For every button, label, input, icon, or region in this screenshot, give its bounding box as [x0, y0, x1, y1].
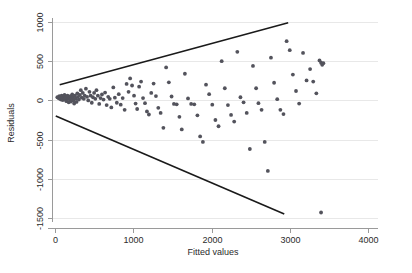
data-point	[175, 102, 179, 106]
data-point	[183, 72, 187, 76]
data-point	[204, 83, 208, 87]
x-tick-label: 3000	[280, 235, 300, 245]
data-point	[288, 48, 292, 52]
data-point	[217, 124, 221, 128]
data-point	[86, 99, 90, 103]
data-point	[198, 135, 202, 139]
x-tick-label: 2000	[202, 235, 222, 245]
data-point	[210, 103, 214, 107]
data-point	[113, 96, 117, 100]
data-point	[145, 109, 149, 113]
scatter-plot-figure: -1500-1000-50005001000 01000200030004000…	[0, 0, 412, 273]
data-point	[139, 80, 143, 84]
plot-axes	[48, 18, 378, 229]
data-point	[285, 39, 289, 43]
data-point	[178, 115, 182, 119]
data-point	[314, 91, 318, 95]
data-point	[291, 73, 295, 77]
y-tick-label: 1000	[35, 12, 45, 32]
data-point	[156, 106, 160, 110]
x-axis-ticks	[56, 229, 369, 234]
y-tick-label: -1500	[35, 207, 45, 230]
data-point	[308, 67, 312, 71]
lower-envelope	[56, 116, 284, 214]
data-point	[248, 147, 252, 151]
data-point	[154, 94, 158, 98]
x-tick-label: 4000	[358, 235, 378, 245]
data-point	[117, 92, 121, 96]
data-point	[102, 98, 106, 102]
data-point	[251, 64, 255, 68]
data-point	[207, 92, 211, 96]
data-point	[260, 108, 264, 112]
data-point	[242, 100, 246, 104]
data-point	[229, 113, 233, 117]
data-point	[149, 91, 153, 95]
data-point	[266, 169, 270, 173]
data-point	[170, 95, 174, 99]
data-point	[137, 85, 141, 89]
data-point	[311, 80, 315, 84]
data-point	[186, 97, 190, 101]
data-point	[125, 82, 129, 86]
data-point	[321, 61, 325, 65]
data-point	[119, 103, 123, 107]
data-point	[201, 140, 205, 144]
data-point	[272, 81, 276, 85]
upper-envelope	[60, 23, 288, 85]
data-point	[245, 111, 249, 115]
y-axis-ticks	[48, 23, 53, 219]
data-point	[223, 86, 227, 90]
data-point	[105, 103, 109, 107]
data-point	[84, 87, 88, 91]
data-point	[90, 101, 94, 105]
data-point	[152, 82, 156, 86]
y-axis-title: Residuals	[6, 103, 16, 143]
data-point	[130, 84, 134, 88]
data-point	[128, 77, 132, 81]
data-point	[164, 66, 168, 70]
data-point	[115, 101, 119, 105]
data-point	[109, 106, 113, 110]
data-point	[282, 112, 286, 116]
data-point	[123, 108, 127, 112]
data-point	[132, 94, 136, 98]
data-point	[275, 97, 279, 101]
data-point	[127, 90, 131, 94]
y-tick-label: -1000	[35, 168, 45, 191]
envelope-lines	[56, 23, 288, 214]
data-point	[147, 113, 151, 117]
data-point	[263, 140, 267, 144]
data-point	[159, 111, 163, 115]
data-point	[305, 79, 309, 83]
data-point	[103, 91, 107, 95]
x-tick-label: 1000	[123, 235, 143, 245]
data-point	[108, 97, 112, 101]
data-point	[278, 108, 282, 112]
data-point	[214, 118, 218, 122]
data-point	[180, 128, 184, 132]
data-point	[97, 102, 101, 106]
data-points	[55, 39, 325, 214]
data-point	[85, 95, 89, 99]
data-point	[232, 120, 236, 124]
data-point	[319, 211, 323, 215]
data-point	[257, 101, 261, 105]
data-point	[301, 51, 305, 55]
data-point	[134, 102, 138, 106]
data-point	[135, 107, 139, 111]
data-point	[100, 93, 104, 97]
data-point	[235, 50, 239, 54]
data-point	[192, 102, 196, 106]
data-point	[88, 90, 92, 94]
data-point	[196, 113, 200, 117]
y-tick-label: 0	[35, 98, 45, 103]
data-point	[95, 88, 99, 92]
data-point	[254, 86, 258, 90]
y-axis-tick-labels: -1500-1000-50005001000	[35, 12, 45, 230]
data-point	[220, 59, 224, 63]
data-point	[297, 102, 301, 106]
x-tick-label: 0	[53, 235, 58, 245]
data-point	[121, 96, 125, 100]
plot-canvas: -1500-1000-50005001000 01000200030004000…	[0, 0, 412, 273]
